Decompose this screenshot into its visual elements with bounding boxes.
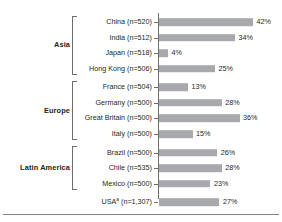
table-row: Mexico (n=500)23% — [0, 176, 282, 192]
bar-value-label: 42% — [257, 18, 271, 25]
bar — [159, 199, 219, 207]
bar-value-label: 23% — [214, 180, 228, 187]
category-label: Great Britain (n=500) — [78, 115, 152, 122]
category-label: Japan (n=518) — [78, 49, 152, 56]
bar-value-label: 34% — [239, 34, 253, 41]
category-label: India (n=512) — [78, 34, 152, 41]
category-label: Mexico (n=500) — [78, 180, 152, 187]
table-row: Hong Kong (n=506)25% — [0, 61, 282, 77]
table-row: China (n=520)42% — [0, 14, 282, 30]
bar — [159, 34, 235, 42]
bar-rows: China (n=520)42%India (n=512)34%Japan (n… — [0, 0, 282, 222]
table-row: Germany (n=500)28% — [0, 95, 282, 111]
footer-rule — [3, 214, 279, 215]
category-label: China (n=520) — [78, 18, 152, 25]
footnote-marker: a — [116, 196, 119, 202]
table-row: Italy (n=500)15% — [0, 126, 282, 142]
bar — [159, 180, 210, 188]
grouped-horizontal-bar-chart: AsiaEuropeLatin America China (n=520)42%… — [0, 0, 282, 222]
bar-value-label: 28% — [225, 99, 239, 106]
category-label: Germany (n=500) — [78, 99, 152, 106]
bar-value-label: 28% — [225, 165, 239, 172]
bar — [159, 115, 240, 123]
bar — [159, 99, 222, 107]
category-label: Chile (n=535) — [78, 165, 152, 172]
bar — [159, 18, 253, 26]
bar-value-label: 4% — [171, 49, 181, 56]
table-row: Great Britain (n=500)36% — [0, 111, 282, 127]
table-row: Japan (n=518)4% — [0, 45, 282, 61]
bar — [159, 130, 193, 138]
category-label: Hong Kong (n=506) — [78, 65, 152, 72]
category-label: Brazil (n=500) — [78, 149, 152, 156]
table-row: Chile (n=535)28% — [0, 160, 282, 176]
bar — [159, 49, 168, 57]
category-label: Italy (n=500) — [78, 130, 152, 137]
bar-value-label: 26% — [221, 149, 235, 156]
bar — [159, 84, 188, 92]
table-row: Brazil (n=500)26% — [0, 145, 282, 161]
bar — [159, 65, 215, 73]
bar-value-label: 13% — [192, 84, 206, 91]
bar — [159, 164, 222, 172]
category-label: USAa (n=1,307) — [78, 199, 152, 206]
table-row: USAa (n=1,307)27% — [0, 195, 282, 211]
bar-value-label: 25% — [218, 65, 232, 72]
bar — [159, 149, 217, 157]
table-row: France (n=504)13% — [0, 80, 282, 96]
bar-value-label: 15% — [196, 130, 210, 137]
table-row: India (n=512)34% — [0, 30, 282, 46]
bar-value-label: 36% — [243, 115, 257, 122]
category-label: France (n=504) — [78, 84, 152, 91]
bar-value-label: 27% — [223, 199, 237, 206]
